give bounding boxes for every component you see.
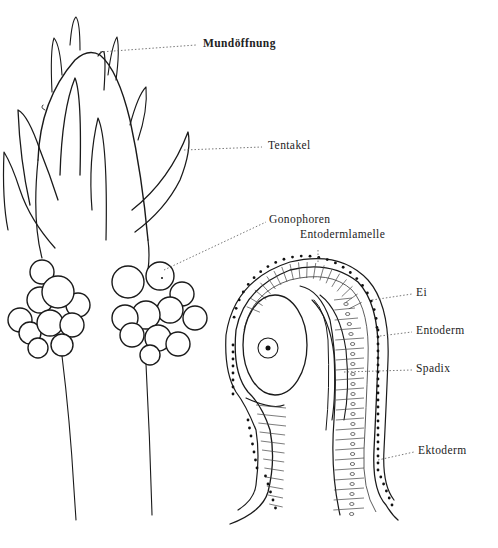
cell-wall: [335, 468, 364, 470]
cell-wall: [336, 388, 364, 390]
cell-nucleus: [347, 323, 351, 326]
nucleus-dot: [377, 420, 380, 423]
nucleus-dot: [377, 385, 380, 388]
nucleus-dot: [391, 504, 394, 507]
nucleus-dot: [377, 462, 380, 465]
cell-nucleus: [351, 393, 355, 396]
gonophore-cluster-left: [8, 260, 90, 358]
nucleus-dot: [232, 344, 235, 347]
nucleus-dot: [256, 467, 259, 470]
cell-wall: [334, 488, 364, 490]
anatomical-figure: [0, 0, 498, 548]
nucleus-dot: [377, 336, 380, 339]
cell-wall: [335, 338, 364, 340]
nucleus-dot: [274, 507, 277, 510]
leader-entoderm: [380, 332, 412, 336]
cell-wall: [349, 302, 362, 309]
nucleus-dot: [377, 399, 380, 402]
nucleus-dot: [259, 270, 262, 273]
cell-wall: [258, 423, 286, 426]
cell-wall: [260, 283, 270, 294]
nucleus-dot: [377, 441, 380, 444]
label-entodermlamelle: Entodermlamelle: [300, 228, 385, 240]
leader-tentakel: [184, 147, 262, 150]
cell-wall: [255, 290, 266, 299]
nucleus-dot: [267, 265, 270, 268]
cell-wall: [268, 495, 283, 498]
nucleus-dot: [232, 393, 235, 396]
label-ektoderm: Ektoderm: [418, 444, 467, 456]
cell-nucleus: [351, 403, 355, 406]
cell-nucleus: [349, 513, 353, 516]
polyp-neck: [148, 240, 149, 270]
cell-wall: [336, 358, 364, 360]
nucleus-dot: [253, 451, 256, 454]
nucleus-dot: [233, 316, 236, 319]
nucleus-dot: [250, 435, 253, 438]
nucleus-dot: [349, 271, 352, 274]
cell-wall: [332, 274, 340, 287]
nucleus-dot: [232, 372, 235, 375]
tentacle: [108, 37, 118, 80]
cell-wall: [334, 478, 364, 480]
egg: [243, 295, 307, 395]
tentacle: [91, 118, 106, 240]
cell-nucleus: [351, 353, 355, 356]
inner-wall: [314, 300, 329, 430]
nucleus-dot: [377, 455, 380, 458]
nucleus-dot: [269, 491, 272, 494]
nucleus-dot: [342, 266, 345, 269]
cell-nucleus: [351, 363, 355, 366]
cell-wall: [257, 414, 286, 417]
nucleus-dot: [385, 490, 388, 493]
cell-wall: [282, 267, 287, 282]
cell-nucleus: [350, 503, 354, 506]
nucleus-dot: [247, 419, 250, 422]
egg-nucleolus: [266, 346, 271, 351]
spadix: [312, 295, 348, 420]
stalk-right: [146, 364, 152, 515]
leader-mundoeffnung: [100, 45, 196, 52]
cell-nucleus: [351, 413, 355, 416]
tentacle: [51, 38, 62, 92]
nucleus-dot: [366, 292, 369, 295]
cell-nucleus: [344, 303, 348, 306]
cell-nucleus: [350, 463, 354, 466]
nucleus-dot: [377, 329, 380, 332]
polyp-drawing: [4, 17, 208, 520]
cell-nucleus: [351, 373, 355, 376]
cell-wall: [334, 498, 364, 500]
nucleus-dot: [242, 290, 245, 293]
nucleus-dot: [379, 476, 382, 479]
bridge: [246, 398, 284, 406]
epithelial-cells: [247, 262, 364, 515]
polyp-neck: [36, 160, 42, 258]
nucleus-dot: [377, 392, 380, 395]
cell-wall: [334, 308, 355, 310]
nucleus-dot: [253, 276, 256, 279]
nucleus-dot: [264, 475, 267, 478]
tentacle: [60, 78, 80, 175]
gonophore-section: [226, 255, 398, 524]
cell-wall: [260, 432, 286, 435]
label-ei: Ei: [416, 286, 427, 298]
nucleus-dot: [309, 255, 312, 258]
nucleus-dot: [377, 469, 380, 472]
nucleus-dot: [267, 483, 270, 486]
cell-wall: [336, 398, 364, 400]
nucleus-dot: [291, 256, 294, 259]
cell-wall: [335, 458, 364, 460]
gonophore-cluster-right: [112, 262, 207, 365]
cell-nucleus: [350, 483, 354, 486]
stalk-left: [62, 356, 76, 520]
ektoderm-nuclei: [232, 255, 394, 510]
nucleus-dot: [382, 483, 385, 486]
nucleus-dot: [377, 364, 380, 367]
nucleus-dot: [232, 379, 235, 382]
leader-gonophoren: [164, 222, 266, 270]
cell-nucleus: [351, 443, 355, 446]
cell-wall: [262, 450, 285, 453]
label-entoderm: Entoderm: [416, 324, 465, 336]
cell-nucleus: [350, 453, 354, 456]
cell-wall: [335, 348, 364, 350]
